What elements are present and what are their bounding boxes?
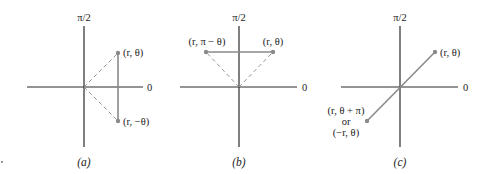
polar-axis-label: 0 bbox=[147, 82, 152, 93]
point-marker bbox=[116, 119, 120, 123]
polar-axis-label: 0 bbox=[302, 82, 307, 93]
point-label: (r, θ) bbox=[263, 36, 284, 48]
dashed-ray-upper bbox=[84, 53, 118, 87]
vertical-axis-label: π/2 bbox=[77, 12, 90, 23]
margin-mark bbox=[1, 161, 3, 163]
point-marker bbox=[204, 50, 208, 54]
panel-caption: (b) bbox=[232, 156, 246, 169]
panel-caption: (c) bbox=[394, 156, 407, 169]
point-marker bbox=[116, 51, 120, 55]
panel-b: π/2 0 (r, π − θ) (r, θ) (b) bbox=[180, 12, 307, 169]
point-label-line2: or bbox=[342, 116, 351, 127]
point-label: (r, −θ) bbox=[123, 116, 150, 128]
polar-axis-label: 0 bbox=[463, 82, 468, 93]
point-label: (r, π − θ) bbox=[189, 36, 226, 48]
point-label-line3: (−r, θ) bbox=[333, 127, 360, 139]
dashed-ray-lower bbox=[84, 87, 118, 121]
point-label: (r, θ) bbox=[123, 47, 144, 59]
dashed-ray-right bbox=[239, 52, 273, 87]
dashed-ray-left bbox=[206, 52, 239, 87]
point-marker bbox=[271, 50, 275, 54]
panel-c: π/2 0 (r, θ) (r, θ + π) or (−r, θ) (c) bbox=[328, 12, 469, 169]
vertical-axis-label: π/2 bbox=[232, 12, 245, 23]
polar-symmetry-figure: π/2 0 (r, θ) (r, −θ) (a) π/2 0 (r, π − θ… bbox=[0, 0, 492, 174]
panel-caption: (a) bbox=[77, 156, 91, 169]
vertical-axis-label: π/2 bbox=[393, 12, 406, 23]
point-label: (r, θ) bbox=[440, 47, 461, 59]
point-marker bbox=[365, 119, 369, 123]
point-marker bbox=[433, 50, 437, 54]
panel-a: π/2 0 (r, θ) (r, −θ) (a) bbox=[27, 12, 152, 169]
